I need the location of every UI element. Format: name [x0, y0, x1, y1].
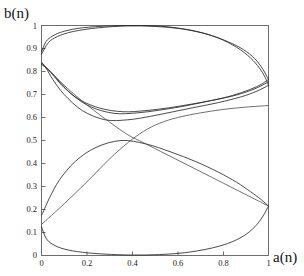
x-tick-labels: 0 0.2 0.4 0.6 0.8 1 — [39, 258, 270, 268]
y-tick-label: 1 — [33, 21, 37, 31]
phase-plot: b(n) a(n) 0 0.1 0.2 — [0, 0, 304, 276]
chart-container: b(n) a(n) 0 0.1 0.2 — [0, 0, 304, 276]
curve-diagonal-ascending — [42, 106, 269, 225]
x-tick-label: 0.4 — [127, 258, 138, 268]
curve-lower-lobe-outer — [42, 206, 269, 255]
x-tick-label: 0.8 — [218, 258, 229, 268]
y-tick-label: 0.1 — [26, 227, 37, 237]
axes-group — [41, 25, 269, 256]
curve-upper-lobe-outer — [42, 25, 269, 85]
curves-group — [42, 25, 269, 255]
curve-lower-lobe-return — [42, 140, 269, 215]
y-tick-label: 0.7 — [26, 89, 37, 99]
x-tick-label: 0 — [39, 258, 43, 268]
curve-diagonal-descending — [42, 62, 269, 206]
y-tick-label: 0.3 — [26, 181, 37, 191]
y-tick-label: 0 — [33, 250, 37, 260]
curve-upper-lobe-second-outer — [42, 26, 269, 80]
x-axis-label: a(n) — [273, 249, 297, 266]
curve-upper-lobe-inner-return — [42, 62, 269, 120]
y-tick-label: 0.5 — [26, 135, 37, 145]
x-tick-label: 0.2 — [82, 258, 93, 268]
curve-upper-lobe-second-return — [42, 65, 269, 114]
y-tick-label: 0.6 — [26, 112, 37, 122]
y-tick-label: 0.8 — [26, 66, 37, 76]
y-tick-labels: 0 0.1 0.2 0.3 0.4 0.5 0.6 0.7 0.8 0.9 1 — [26, 21, 37, 260]
y-tick-label: 0.9 — [26, 43, 37, 53]
y-tick-label: 0.4 — [26, 158, 37, 168]
curve-upper-lobe-third-return — [42, 63, 269, 111]
y-axis-label: b(n) — [4, 5, 29, 22]
y-tick-label: 0.2 — [26, 204, 37, 214]
x-tick-label: 0.6 — [173, 258, 184, 268]
x-tick-label: 1 — [266, 258, 270, 268]
